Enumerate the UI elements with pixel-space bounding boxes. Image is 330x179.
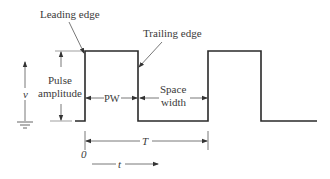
ground-icon <box>17 122 33 128</box>
time-label: t <box>118 158 122 170</box>
space-label: Space <box>160 83 186 95</box>
pw-label: PW <box>104 93 120 104</box>
width-label: width <box>161 96 187 108</box>
amplitude-label: amplitude <box>38 87 82 99</box>
leading-edge-leader <box>69 22 84 53</box>
voltage-label-overlay: v <box>21 88 30 100</box>
origin-label: 0 <box>81 148 87 160</box>
pulse-diagram: Leading edge Trailing edge Pulse amplitu… <box>0 0 330 179</box>
pulse-label: Pulse <box>48 74 72 86</box>
period-label: T <box>142 135 149 147</box>
pulse-waveform <box>75 51 317 121</box>
trailing-edge-label: Trailing edge <box>143 27 202 39</box>
trailing-edge-leader <box>139 42 162 67</box>
leading-edge-label: Leading edge <box>40 8 100 20</box>
